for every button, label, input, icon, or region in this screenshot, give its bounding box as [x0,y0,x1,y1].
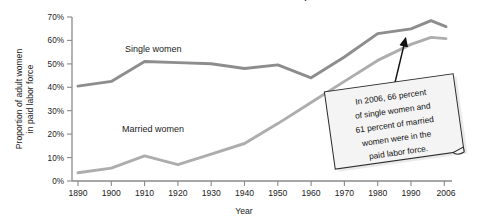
x-tick-label: 1940 [235,188,254,198]
x-tick-label: 1890 [68,188,87,198]
y-tick-label: 30% [48,107,64,116]
y-axis-ticks [67,17,72,181]
x-tick-label: 1950 [268,188,287,198]
x-tick-label: 1960 [302,188,321,198]
y-tick-label: 60% [48,36,64,45]
chart-figure: Women in the Paid Labor Force, 1890–2006… [0,0,486,223]
y-tick-label: 20% [48,130,64,139]
x-tick-label: 1900 [102,188,121,198]
y-axis-tick-labels: 0% 10% 20% 30% 40% 50% 60% 70% [48,13,64,186]
y-tick-label: 70% [48,13,64,22]
y-tick-label: 50% [48,60,64,69]
x-tick-label: 2006 [436,188,455,198]
chart-canvas: 0% 10% 20% 30% 40% 50% 60% 70% 1890 [0,0,486,223]
x-tick-label: 1980 [368,188,387,198]
y-axis-title-line2: in paid labor force [25,65,35,134]
x-tick-label: 1990 [401,188,420,198]
x-tick-label: 1910 [135,188,154,198]
x-tick-label: 1920 [168,188,187,198]
y-tick-label: 0% [52,177,64,186]
y-tick-label: 40% [48,83,64,92]
x-axis-title: Year [235,206,253,216]
series-label-single: Single women [125,44,182,54]
x-tick-label: 1930 [202,188,221,198]
series-label-married: Married women [122,124,184,134]
y-tick-label: 10% [48,154,64,163]
callout-box: In 2006, 66 percent of single women and … [324,73,467,172]
y-axis-title-line1: Proportion of adult women [14,49,24,150]
x-tick-label: 1970 [335,188,354,198]
x-axis-tick-labels: 1890 1900 1910 1920 1930 1940 1950 1960 … [68,188,455,198]
x-axis-ticks [78,181,444,186]
